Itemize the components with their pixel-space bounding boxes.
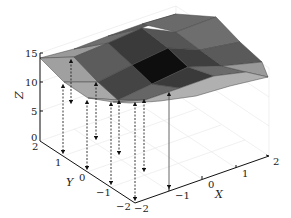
y-tick-labels: 2 1 0 −1 −2 <box>32 141 131 212</box>
x-tick: 0 <box>208 179 214 190</box>
y-axis-label: Y <box>66 176 75 189</box>
y-tick: −1 <box>96 187 111 198</box>
z-tick-labels: 15 10 5 0 <box>25 48 38 143</box>
y-tick: 0 <box>79 172 85 183</box>
z-axis-label: Z <box>13 91 26 100</box>
z-tick: 10 <box>25 77 38 88</box>
y-tick: −2 <box>116 201 131 212</box>
surface <box>40 14 268 103</box>
z-tick: 5 <box>31 106 37 117</box>
y-tick: 1 <box>55 157 61 168</box>
x-axis-label: X <box>214 188 224 201</box>
x-tick: −1 <box>175 190 190 201</box>
surface-plot: 15 10 5 0 Z 2 1 0 −1 −2 Y −2 −1 0 1 2 X <box>0 0 291 218</box>
y-axis <box>40 141 135 203</box>
y-tick: 2 <box>32 141 38 152</box>
x-axis <box>135 156 269 203</box>
x-tick: 1 <box>242 168 248 179</box>
x-tick-labels: −2 −1 0 1 2 <box>134 156 279 214</box>
x-tick: −2 <box>134 203 149 214</box>
z-tick: 15 <box>25 48 38 59</box>
x-tick: 2 <box>273 156 279 167</box>
